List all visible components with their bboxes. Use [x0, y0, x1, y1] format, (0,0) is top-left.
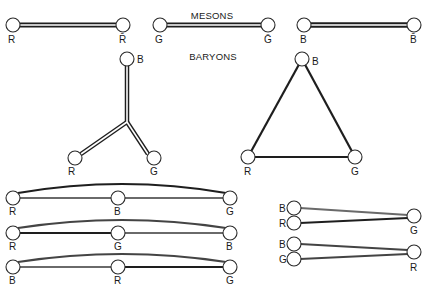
baryon-y-junction: B R G [68, 52, 161, 177]
quark-node-single [407, 245, 421, 259]
quark-label-single: R [410, 262, 417, 273]
diquark-label-bottom: G [279, 254, 287, 265]
quark-string-diagram: MESONS BARYONS R R̄ G Ḡ B B̄ [0, 0, 433, 295]
baryons-heading: BARYONS [189, 51, 237, 62]
antiquark-node [407, 18, 421, 32]
meson-blue: B B̄ [297, 18, 421, 45]
diquark-baryon-2: B G R [279, 237, 421, 273]
quark-label-left: R [244, 166, 251, 177]
quark-label-top: B [137, 54, 144, 65]
quark-label-middle: R [114, 275, 121, 286]
diquark-node-top [287, 201, 301, 215]
quark-node-right [223, 191, 237, 205]
linear-baryon-row-2: R G B [6, 220, 237, 252]
quark-node-top [295, 52, 309, 66]
quark-label-right: G [226, 275, 234, 286]
quark-node-right [348, 150, 362, 164]
quark-label-left: R [9, 206, 16, 217]
quark-node-middle [111, 191, 125, 205]
linear-baryon-row-1: R B G [6, 184, 237, 217]
quark-node-single [407, 209, 421, 223]
quark-node-left [6, 226, 20, 240]
diquark-baryon-1: B R G [279, 201, 421, 236]
quark-label: R [8, 34, 15, 45]
baryon-triangle: B R G [241, 52, 362, 177]
quark-node-left [6, 191, 20, 205]
antiquark-node [261, 18, 275, 32]
quark-node-left [241, 150, 255, 164]
diquark-node-bottom [287, 216, 301, 230]
quark-label-single: G [410, 225, 418, 236]
quark-label-left: B [9, 275, 16, 286]
quark-label-top: B [312, 56, 319, 67]
quark-label: B [300, 34, 307, 45]
quark-node-right [223, 260, 237, 274]
quark-node-right [147, 151, 161, 165]
diquark-node-bottom [287, 252, 301, 266]
quark-label-middle: B [114, 206, 121, 217]
quark-node-middle [111, 260, 125, 274]
diagram-canvas: MESONS BARYONS R R̄ G Ḡ B B̄ [0, 0, 433, 295]
linear-baryon-row-3: B R G [6, 254, 237, 286]
quark-label-left: R [68, 166, 75, 177]
quark-node [6, 18, 20, 32]
antiquark-label: R̄ [119, 33, 126, 45]
quark-node-right [223, 226, 237, 240]
quark-node-middle [111, 226, 125, 240]
meson-green: G Ḡ [153, 18, 275, 45]
quark-label-left: R [9, 241, 16, 252]
quark-node [297, 18, 311, 32]
quark-node [153, 18, 167, 32]
quark-label: G [155, 34, 163, 45]
antiquark-label: Ḡ [264, 34, 272, 45]
quark-label-right: G [351, 166, 359, 177]
diquark-label-top: B [279, 239, 286, 250]
quark-label-right: G [150, 166, 158, 177]
antiquark-node [116, 18, 130, 32]
diquark-label-bottom: R [279, 218, 286, 229]
quark-node-top [120, 52, 134, 66]
antiquark-label: B̄ [410, 33, 417, 45]
quark-label-right: B [226, 241, 233, 252]
mesons-heading: MESONS [191, 10, 233, 21]
quark-label-right: G [226, 206, 234, 217]
diquark-node-top [287, 237, 301, 251]
quark-label-middle: G [114, 241, 122, 252]
diquark-label-top: B [279, 203, 286, 214]
quark-node-left [6, 260, 20, 274]
quark-node-left [68, 151, 82, 165]
meson-red: R R̄ [6, 18, 130, 45]
